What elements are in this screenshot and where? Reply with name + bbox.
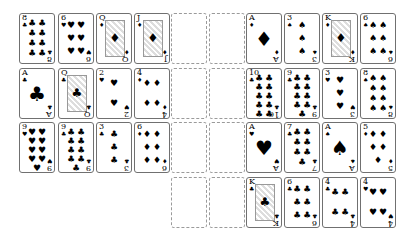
playing-card[interactable]: 9♣♣♣♣♣♣♣♣♣♣9♣ — [284, 68, 320, 119]
suit-icon: ♦ — [137, 22, 142, 28]
playing-card[interactable]: 4♥♥♥♥♥4♥ — [360, 177, 396, 228]
playing-card[interactable]: Q♣♣Q♣ — [58, 68, 94, 119]
suit-pip-icon: ♠ — [369, 104, 378, 113]
empty-card-slot[interactable] — [209, 13, 245, 64]
card-pips: ♠♠♠♠♠♠♠♠ — [368, 74, 388, 113]
suit-icon: ♦ — [274, 49, 279, 55]
card-pips: ♠♠♠♠♠♠ — [368, 19, 388, 58]
suit-pip-icon: ♥ — [330, 76, 350, 85]
card-rank-bottom: 9 — [47, 164, 52, 172]
card-pips: ♣♣♣ — [104, 128, 124, 167]
card-rank-bottom: 3 — [350, 110, 355, 118]
suit-pip-icon: ♣ — [38, 39, 47, 48]
suit-pip-icon: ♦ — [254, 29, 274, 49]
suit-icon: ♦ — [336, 34, 347, 43]
card-pips: ♣♣♣♣♣♣♣♣♣♣ — [254, 74, 274, 113]
playing-card[interactable]: A♣♣A♣ — [19, 68, 55, 119]
suit-icon: ♣ — [312, 158, 317, 164]
suit-icon: ♥ — [388, 213, 393, 219]
suit-pip-icon: ♦ — [369, 130, 378, 139]
playing-card[interactable]: 6♣♣♣♣♣♣♣6♣ — [284, 177, 320, 228]
suit-pip-icon: ♠ — [369, 94, 378, 103]
playing-card[interactable]: A♦♦A♦ — [246, 13, 282, 64]
playing-card[interactable]: 2♥♥♥2♥ — [96, 68, 132, 119]
empty-card-slot[interactable] — [171, 13, 207, 64]
playing-card[interactable]: 6♥♥♥♥♥♥♥6♥ — [58, 13, 94, 64]
suit-icon: ♣ — [274, 213, 279, 219]
suit-pip-icon: ♣ — [28, 49, 37, 58]
playing-card[interactable]: 3♥♥♥♥3♥ — [322, 68, 358, 119]
card-pips: ♥♥♥♥♥♥♥♥♥ — [27, 128, 47, 167]
suit-icon: ♥ — [350, 104, 355, 110]
playing-card[interactable]: A♠♠A♠ — [322, 122, 358, 173]
playing-card[interactable]: 8♣♣♣♣♣♣♣♣♣8♣ — [19, 13, 55, 64]
suit-pip-icon: ♠ — [369, 34, 378, 43]
suit-pip-icon: ♥ — [67, 47, 76, 56]
suit-pip-icon: ♠ — [369, 74, 378, 83]
card-pips: ♣♣♣♣♣♣♣♣♣ — [292, 74, 312, 113]
suit-pip-icon: ♣ — [303, 185, 312, 194]
suit-icon: ♣ — [260, 198, 271, 207]
suit-pip-icon: ♣ — [293, 128, 302, 137]
suit-icon: ♠ — [350, 158, 355, 164]
empty-card-slot[interactable] — [171, 177, 207, 228]
playing-card[interactable]: 10♣♣♣♣♣♣♣♣♣♣♣10♣ — [246, 68, 282, 119]
playing-card[interactable]: 4♦♦♦♦♦4♦ — [134, 68, 170, 119]
card-pips: ♠ — [330, 128, 350, 167]
card-pips: ♥♥♥ — [330, 74, 350, 113]
suit-pip-icon: ♣ — [298, 110, 307, 119]
playing-card[interactable]: 9♣♣♣♣♣♣♣♣♣♣9♣ — [58, 122, 94, 173]
suit-pip-icon: ♦ — [369, 143, 378, 152]
suit-icon: ♦ — [162, 158, 167, 164]
suit-pip-icon: ♥ — [254, 138, 274, 158]
card-pips: ♣♣♣♣ — [330, 183, 350, 222]
suit-pip-icon: ♠ — [369, 21, 378, 30]
empty-card-slot[interactable] — [171, 68, 207, 119]
suit-pip-icon: ♥ — [67, 21, 76, 30]
suit-icon: ♣ — [61, 77, 66, 83]
card-rank-bottom: 6 — [162, 164, 167, 172]
suit-pip-icon: ♦ — [143, 130, 152, 139]
suit-pip-icon: ♣ — [303, 128, 312, 137]
card-rank-bottom: J — [164, 55, 167, 63]
playing-card[interactable]: 6♠♠♠♠♠♠♠6♠ — [360, 13, 396, 64]
playing-card[interactable]: 3♣♣♣♣3♣ — [96, 122, 132, 173]
empty-card-slot[interactable] — [209, 68, 245, 119]
suit-icon: ♦ — [325, 22, 330, 28]
suit-icon: ♥ — [47, 158, 52, 164]
suit-icon: ♣ — [274, 104, 279, 110]
empty-card-slot[interactable] — [209, 177, 245, 228]
card-rank-bottom: 5 — [388, 164, 393, 172]
playing-card[interactable]: 4♣♣♣♣♣4♣ — [322, 177, 358, 228]
playing-card[interactable]: 5♦♦♦♦♦♦5♦ — [360, 122, 396, 173]
playing-card[interactable]: 7♣♣♣♣♣♣♣♣7♣ — [284, 122, 320, 173]
suit-icon: ♣ — [249, 186, 254, 192]
suit-icon: ♦ — [110, 34, 121, 43]
card-rank-bottom: Q — [84, 110, 91, 118]
playing-card[interactable]: 3♠♠♠♠3♠ — [284, 13, 320, 64]
playing-card[interactable]: 9♥♥♥♥♥♥♥♥♥♥9♥ — [19, 122, 55, 173]
suit-pip-icon: ♣ — [303, 211, 312, 220]
playing-card[interactable]: 6♦♦♦♦♦♦♦6♦ — [134, 122, 170, 173]
card-rank-bottom: 9 — [86, 164, 91, 172]
card-rank-bottom: 8 — [47, 55, 52, 63]
playing-card[interactable]: K♦♦K♦ — [322, 13, 358, 64]
card-rank-bottom: Q — [122, 55, 129, 63]
suit-pip-icon: ♦ — [374, 156, 383, 165]
playing-card[interactable]: K♣♣K♣ — [246, 177, 282, 228]
playing-card[interactable]: Q♦♦Q♦ — [96, 13, 132, 64]
suit-icon: ♣ — [86, 158, 91, 164]
playing-card[interactable]: 8♠♠♠♠♠♠♠♠♠8♠ — [360, 68, 396, 119]
suit-pip-icon: ♦ — [153, 99, 162, 108]
playing-card[interactable]: J♦♦J♦ — [134, 13, 170, 64]
suit-pip-icon: ♣ — [303, 148, 312, 157]
suit-icon: ♣ — [350, 213, 355, 219]
suit-pip-icon: ♣ — [341, 188, 350, 197]
card-pips: ♣♣♣♣♣♣♣ — [292, 128, 312, 167]
suit-pip-icon: ♠ — [292, 47, 312, 56]
playing-card[interactable]: A♥♥A♥ — [246, 122, 282, 173]
suit-pip-icon: ♣ — [293, 198, 302, 207]
empty-card-slot[interactable] — [209, 122, 245, 173]
suit-pip-icon: ♦ — [143, 99, 152, 108]
empty-card-slot[interactable] — [171, 122, 207, 173]
